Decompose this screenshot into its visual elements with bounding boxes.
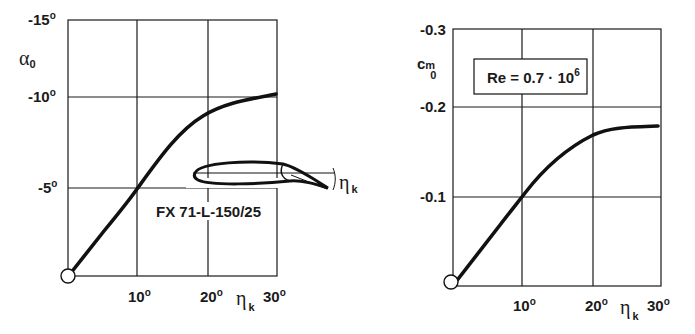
airfoil-sketch: ηk (186, 162, 358, 195)
left-xtick-10: 10o (128, 287, 151, 305)
left-chart: -15o -10o -5o α0 10o 20o 30o ηk ηk FX 71… (19, 10, 358, 313)
left-ytick-10: -10o (28, 87, 56, 105)
left-xtick-30: 30o (263, 287, 286, 305)
figure: -15o -10o -5o α0 10o 20o 30o ηk ηk FX 71… (0, 0, 695, 334)
flap-angle-arc (333, 168, 335, 190)
left-origin-marker (61, 269, 75, 283)
airfoil-outline (194, 162, 328, 188)
right-origin-marker (444, 275, 458, 289)
right-ytick-01: -0.1 (420, 188, 446, 205)
right-xlabel: ηk (620, 296, 639, 322)
right-xtick-30: 30o (647, 296, 670, 314)
right-ytick-02: -0.2 (420, 98, 446, 115)
left-ytick-5: -5o (38, 178, 57, 196)
right-ylabel: cm0 (417, 55, 436, 81)
left-ylabel: α0 (19, 47, 36, 70)
right-curve (455, 126, 658, 283)
flap-angle-label: ηk (339, 171, 358, 195)
left-xtick-20: 20o (200, 287, 223, 305)
right-ytick-03: -0.3 (420, 21, 446, 38)
right-xtick-10: 10o (513, 296, 536, 314)
right-xtick-20: 20o (585, 296, 608, 314)
left-ytick-15: -15o (28, 10, 56, 28)
right-chart: -0.3 -0.2 -0.1 cm0 Re = 0.7 · 106 10o 20… (417, 21, 670, 322)
airfoil-name-label: FX 71-L-150/25 (156, 203, 261, 220)
reynolds-label: Re = 0.7 · 106 (487, 67, 580, 86)
left-xlabel: ηk (236, 287, 255, 313)
